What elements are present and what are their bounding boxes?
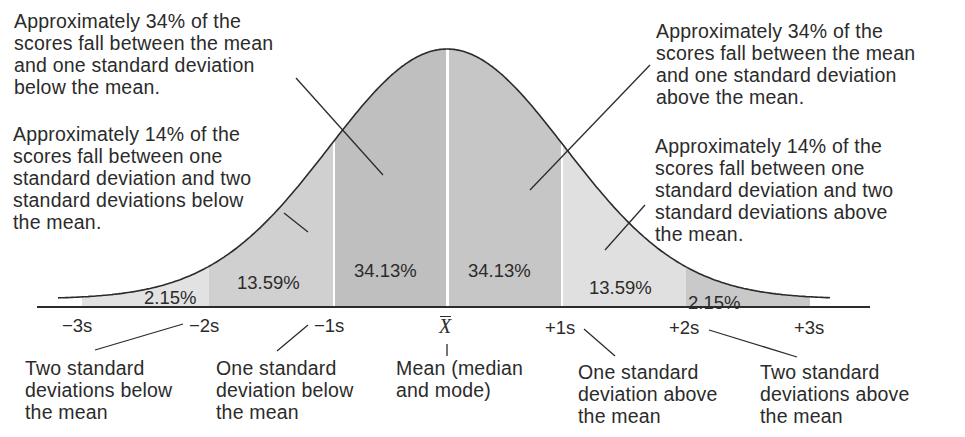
leader-line-m2 (95, 324, 183, 350)
tick-plus2s: +2s (669, 317, 699, 339)
tick-minus2s: −2s (189, 315, 219, 337)
band-label-minus1: 34.13% (354, 260, 417, 282)
annotation-34-below: Approximately 34% of the scores fall bet… (14, 10, 273, 98)
leader-line-m1 (277, 325, 308, 351)
annotation-34-above: Approximately 34% of the scores fall bet… (656, 20, 915, 108)
caption-one-sd-below: One standard deviation below the mean (216, 357, 353, 423)
band-label-plus2: 2.15% (688, 292, 740, 314)
xbar-overline (440, 316, 451, 317)
caption-two-sd-above: Two standard deviations above the mean (760, 361, 910, 427)
leader-line-p2 (709, 330, 797, 357)
caption-two-sd-below: Two standard deviations below the mean (25, 357, 172, 423)
xbar-letter: X (439, 315, 451, 337)
leader-line-p1 (584, 329, 615, 356)
tick-mean-xbar: X (439, 315, 451, 338)
annotation-14-below: Approximately 14% of the scores fall bet… (13, 123, 251, 233)
tick-minus3s: −3s (62, 315, 92, 337)
band-label-plus1: 13.59% (589, 277, 652, 299)
caption-mean: Mean (median and mode) (396, 357, 523, 401)
caption-one-sd-above: One standard deviation above the mean (578, 361, 718, 427)
tick-plus1s: +1s (545, 317, 575, 339)
annotation-14-above: Approximately 14% of the scores fall bet… (655, 135, 893, 245)
band-label-plus0: 34.13% (468, 260, 531, 282)
tick-minus1s: −1s (314, 315, 344, 337)
tick-plus3s: +3s (794, 317, 824, 339)
band-label-minus2: 13.59% (237, 272, 300, 294)
band-label-minus3: 2.15% (144, 287, 196, 309)
